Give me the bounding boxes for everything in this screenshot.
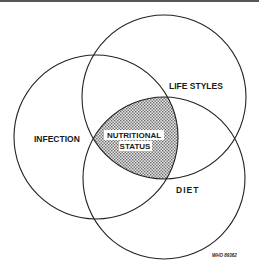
life-styles-label: LIFE STYLES	[169, 81, 223, 91]
diet-label: DIET	[176, 185, 199, 195]
infection-label: INFECTION	[34, 134, 80, 144]
center-label-line2: STATUS	[120, 142, 151, 151]
venn-diagram: INFECTION LIFE STYLES DIET NUTRITIONAL S…	[0, 0, 259, 271]
center-label-line1: NUTRITIONAL	[107, 131, 161, 140]
intersection-region	[83, 97, 245, 259]
credit-label: WHO 89362	[212, 253, 237, 258]
